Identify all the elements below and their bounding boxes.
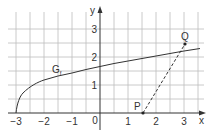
svg-text:1: 1: [91, 80, 97, 91]
y-axis-label: y: [90, 5, 95, 16]
svg-text:3: 3: [91, 24, 97, 35]
x-tick-labels: −3 −2 −1 0 1 2 3: [10, 115, 187, 127]
point-q: [183, 42, 186, 45]
svg-text:2: 2: [153, 116, 159, 127]
svg-text:−3: −3: [10, 116, 22, 127]
point-q-label: Q: [181, 31, 189, 42]
svg-text:3: 3: [181, 116, 187, 127]
point-p-label: P: [134, 101, 141, 112]
svg-text:1: 1: [125, 116, 131, 127]
svg-text:−1: −1: [66, 116, 78, 127]
y-tick-labels: 1 2 3: [91, 24, 97, 91]
function-graph: P Q Gf x y −3 −2 −1 0 1 2 3 1 2 3: [0, 0, 211, 135]
point-p: [141, 111, 144, 114]
svg-text:2: 2: [91, 52, 97, 63]
graph-label: Gf: [52, 64, 62, 76]
grid: [8, 12, 204, 113]
svg-text:0: 0: [92, 115, 98, 126]
x-axis-label: x: [199, 115, 204, 126]
svg-text:−2: −2: [38, 116, 50, 127]
axes: [8, 10, 203, 130]
y-axis-arrow-icon: [98, 6, 103, 13]
